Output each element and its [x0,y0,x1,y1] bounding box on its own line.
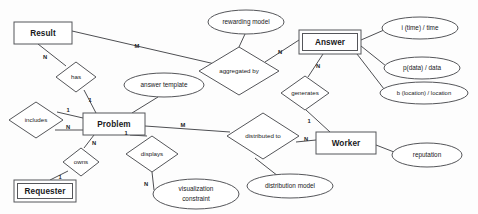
attribute-time[interactable]: i (time) / time [382,17,458,39]
entity-worker[interactable]: Worker [316,132,376,154]
entity-answer[interactable]: Answer [299,30,361,54]
attribute-data-label: p(data) / data [403,64,441,72]
cardinality-displays-visualization: N [144,181,148,187]
relationship-has[interactable]: has [56,62,96,92]
attribute-reputation-label: reputation [413,151,442,159]
cardinality-result-aggregated: M [135,43,140,49]
attribute-location[interactable]: b (location) / location [380,82,468,104]
relationship-owns-label: owns [74,158,88,165]
attribute-answer-template-label: answer template [141,81,188,89]
link-answer-time [361,30,384,40]
attribute-rewarding-model-label: rewarding model [222,18,269,26]
entity-answer-label: Answer [315,38,346,47]
relationship-generates[interactable]: generates [281,76,329,110]
relationship-generates-label: generates [291,89,319,96]
attribute-visualization-constraint-line2: constraint [182,195,210,202]
cardinality-answer-generates: N [316,63,320,69]
link-problem-answer-template [132,97,158,113]
link-worker-reputation [376,145,394,152]
attribute-reputation[interactable]: reputation [392,143,462,167]
relationship-includes-label: includes [25,116,48,123]
attribute-answer-template[interactable]: answer template [124,73,204,97]
attribute-data[interactable]: p(data) / data [384,57,460,79]
entity-worker-label: Worker [332,139,361,148]
relationship-includes[interactable]: includes [9,102,63,138]
cardinality-problem-includes-n: N [66,124,70,130]
relationship-distributed-to-label: distributed to [245,132,281,139]
cardinality-problem-includes-1: 1 [66,107,70,113]
entity-result[interactable]: Result [14,22,72,44]
er-diagram-canvas: Result Answer Problem Worker Requester h… [0,0,478,214]
cardinality-problem-distributed: M [181,122,186,128]
cardinality-distributed-worker: N [304,136,308,142]
link-result-aggregated [72,31,215,64]
attribute-distribution-model-label: distribution model [265,182,315,189]
link-answer-location [357,54,384,89]
link-displays-visualization [152,172,154,190]
relationship-displays[interactable]: displays [126,136,178,172]
relationship-has-label: has [71,73,81,80]
cardinality-result-has: N [43,54,47,60]
link-problem-includes-1 [57,112,83,118]
attribute-distribution-model[interactable]: distribution model [247,174,333,198]
cardinality-problem-owns: N [92,140,96,146]
relationship-distributed-to[interactable]: distributed to [227,113,299,159]
relationship-aggregated-by[interactable]: aggregated by [199,47,279,95]
link-answer-data [361,46,386,66]
cardinality-has-problem: 1 [88,97,92,103]
link-distributed-model [255,158,278,176]
entity-problem-label: Problem [97,120,130,129]
entity-problem[interactable]: Problem [83,113,145,135]
relationship-owns[interactable]: owns [63,148,99,176]
entity-requester-label: Requester [25,187,67,196]
attribute-visualization-constraint[interactable]: visualization constraint [153,179,239,209]
link-aggregated-rewarding [239,34,245,47]
entity-requester[interactable]: Requester [14,180,76,202]
attribute-location-label: b (location) / location [397,90,451,96]
attribute-time-label: i (time) / time [402,24,439,32]
cardinality-aggregated-answer: N [278,49,282,55]
relationship-aggregated-by-label: aggregated by [219,67,259,74]
attribute-rewarding-model[interactable]: rewarding model [208,10,284,34]
attribute-visualization-constraint-line1: visualization [179,185,214,192]
entity-result-label: Result [30,29,56,38]
relationship-displays-label: displays [141,150,163,157]
cardinality-generates-worker: 1 [307,118,311,124]
link-problem-distributed [145,126,230,132]
